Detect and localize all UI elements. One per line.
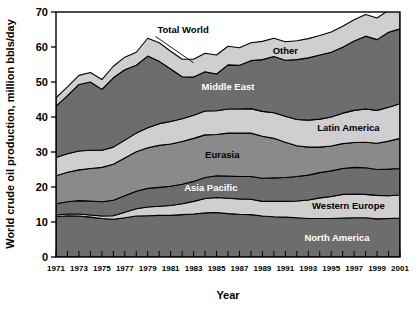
x-axis-tick-label: 1977 [116, 264, 134, 273]
band-label-latin-america: Latin America [317, 122, 380, 133]
band-label-western-europe: Western Europe [312, 200, 385, 211]
band-label-north-america: North America [304, 232, 370, 243]
y-axis-tick-label: 70 [36, 6, 48, 18]
y-axis-tick-label: 50 [36, 76, 48, 88]
x-axis-tick-label: 1975 [93, 264, 111, 273]
chart-container: North AmericaWestern EuropeAsia PacificE… [0, 0, 418, 309]
y-axis-tick-label: 10 [36, 216, 48, 228]
y-axis-tick-label: 40 [36, 111, 48, 123]
x-axis-tick-label: 1985 [208, 264, 226, 273]
y-axis-tick-label: 0 [42, 251, 48, 263]
x-axis-tick-label: 1995 [322, 264, 340, 273]
x-axis-tick-label: 1987 [231, 264, 249, 273]
y-axis-tick-label: 60 [36, 41, 48, 53]
y-axis-tick-label: 20 [36, 181, 48, 193]
band-label-eurasia: Eurasia [205, 149, 240, 160]
x-axis-tick-label: 1989 [254, 264, 272, 273]
x-axis-tick-label: 1997 [345, 264, 363, 273]
y-axis: 010203040506070 [36, 6, 56, 263]
band-label-other: Other [273, 45, 299, 56]
band-label-asia-pacific: Asia Pacific [184, 182, 237, 193]
x-axis-tick-label: 1991 [276, 264, 294, 273]
x-axis-tick-label: 2001 [391, 264, 409, 273]
band-label-middle-east: Middle East [202, 81, 256, 92]
x-axis-tick-label: 1999 [368, 264, 386, 273]
y-axis-tick-label: 30 [36, 146, 48, 158]
x-axis-tick-label: 1973 [70, 264, 88, 273]
x-axis-tick-label: 1981 [162, 264, 180, 273]
stacked-area-chart: North AmericaWestern EuropeAsia PacificE… [0, 0, 418, 309]
x-axis-tick-label: 1993 [299, 264, 317, 273]
x-axis-title: Year [216, 289, 240, 301]
x-axis-tick-label: 1983 [185, 264, 203, 273]
x-axis-tick-label: 1979 [139, 264, 157, 273]
total-world-label: Total World [157, 24, 209, 35]
x-axis-tick-label: 1971 [47, 264, 65, 273]
y-axis-title: World crude oil production, million bbls… [4, 18, 16, 248]
